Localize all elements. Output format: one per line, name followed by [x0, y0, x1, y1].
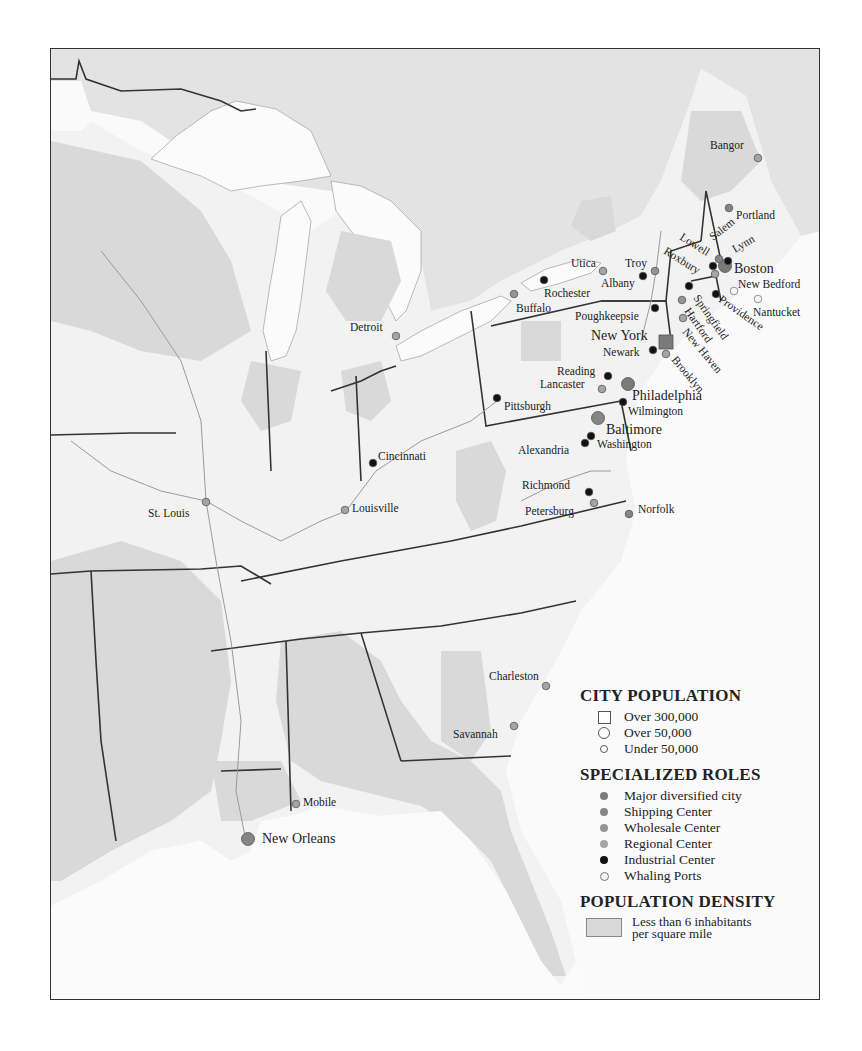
- industrial-city-dot-icon: [369, 459, 377, 467]
- shipping-city-dot-icon: [715, 255, 723, 263]
- legend-label: Under 50,000: [624, 741, 698, 757]
- regional-dot-icon: [600, 840, 608, 848]
- shipping-city-dot-icon: [242, 833, 255, 846]
- industrial-city-dot-icon: [587, 432, 595, 440]
- industrial-city-dot-icon: [493, 394, 501, 402]
- city-label: Louisville: [352, 502, 399, 514]
- city-marker: Nantucket: [753, 295, 801, 318]
- legend-item-over-50000: Over 50,000: [580, 725, 820, 741]
- regional-city-dot-icon: [510, 722, 518, 730]
- city-label: Albany: [601, 277, 635, 290]
- legend-item-whaling: Whaling Ports: [580, 868, 820, 884]
- city-label: Norfolk: [638, 503, 675, 515]
- city-label: Reading: [557, 365, 596, 378]
- legend-label: Industrial Center: [624, 852, 715, 868]
- whaling-city-dot-icon: [754, 295, 762, 303]
- city-label: Utica: [571, 257, 596, 269]
- regional-city-dot-icon: [662, 350, 670, 358]
- city-label: Troy: [625, 257, 647, 270]
- legend-label: Major diversified city: [624, 788, 742, 804]
- wholesale-dot-icon: [600, 824, 608, 832]
- legend-label: Over 50,000: [624, 725, 692, 741]
- city-label: Philadelphia: [632, 388, 703, 403]
- regional-city-dot-icon: [599, 267, 607, 275]
- major_diversified-city-dot-icon: [659, 335, 673, 349]
- city-label: Nantucket: [753, 306, 801, 318]
- industrial-city-dot-icon: [585, 488, 593, 496]
- shipping-city-dot-icon: [625, 510, 633, 518]
- regional-city-dot-icon: [542, 682, 550, 690]
- legend-item-major-diversified: Major diversified city: [580, 788, 820, 804]
- regional-city-dot-icon: [292, 800, 300, 808]
- regional-city-dot-icon: [590, 499, 598, 507]
- legend-label: Whaling Ports: [624, 868, 702, 884]
- shipping-city-dot-icon: [592, 412, 605, 425]
- legend-item-shipping: Shipping Center: [580, 804, 820, 820]
- city-label: New Bedford: [738, 278, 801, 290]
- legend-density-title: POPULATION DENSITY: [580, 892, 820, 912]
- city-label: Petersburg: [525, 505, 574, 518]
- regional-city-dot-icon: [679, 314, 687, 322]
- industrial-city-dot-icon: [651, 304, 659, 312]
- square-symbol-icon: [598, 711, 611, 724]
- regional-city-dot-icon: [392, 332, 400, 340]
- legend-label: Wholesale Center: [624, 820, 720, 836]
- shipping-city-dot-icon: [725, 204, 733, 212]
- major-diversified-dot-icon: [600, 792, 608, 800]
- regional-city-dot-icon: [598, 385, 606, 393]
- city-label: Boston: [734, 261, 774, 276]
- city-label: Mobile: [303, 796, 336, 808]
- legend-item-under-50000: Under 50,000: [580, 741, 820, 757]
- city-label: Cincinnati: [378, 450, 426, 462]
- city-label: Wilmington: [628, 405, 683, 418]
- city-marker: New Bedford: [730, 278, 800, 295]
- city-label: Portland: [736, 209, 775, 221]
- city-label: Savannah: [453, 728, 498, 740]
- industrial-city-dot-icon: [712, 290, 720, 298]
- industrial-city-dot-icon: [619, 398, 627, 406]
- shipping-dot-icon: [600, 808, 608, 816]
- city-label: Lancaster: [540, 378, 585, 390]
- regional-city-dot-icon: [202, 498, 210, 506]
- wholesale-city-dot-icon: [651, 267, 659, 275]
- legend-label: Over 300,000: [624, 709, 698, 725]
- legend-item-industrial: Industrial Center: [580, 852, 820, 868]
- city-label: Charleston: [489, 670, 539, 682]
- city-label: Detroit: [350, 321, 383, 333]
- city-label: Poughkeepsie: [575, 310, 639, 323]
- industrial-dot-icon: [600, 856, 608, 864]
- regional-city-dot-icon: [341, 506, 349, 514]
- legend-item-regional: Regional Center: [580, 836, 820, 852]
- industrial-city-dot-icon: [685, 282, 693, 290]
- legend-population-density: POPULATION DENSITY Less than 6 inhabitan…: [580, 892, 820, 940]
- regional-city-dot-icon: [711, 270, 719, 278]
- legend-roles-title: SPECIALIZED ROLES: [580, 765, 820, 785]
- city-label: New Orleans: [262, 831, 335, 846]
- whaling-dot-icon: [600, 872, 609, 881]
- wholesale-city-dot-icon: [678, 296, 686, 304]
- industrial-city-dot-icon: [604, 372, 612, 380]
- city-label: Baltimore: [606, 422, 662, 437]
- large-circle-symbol-icon: [598, 727, 610, 739]
- legend-label: Regional Center: [624, 836, 712, 852]
- legend-city-population: CITY POPULATION Over 300,000 Over 50,000…: [580, 686, 820, 757]
- industrial-city-dot-icon: [649, 346, 657, 354]
- industrial-city-dot-icon: [581, 439, 589, 447]
- wholesale-city-dot-icon: [510, 290, 518, 298]
- density-label: Less than 6 inhabitants per square mile: [632, 916, 762, 940]
- industrial-city-dot-icon: [724, 257, 732, 265]
- industrial-city-dot-icon: [639, 272, 647, 280]
- city-label: Washington: [597, 438, 652, 451]
- city-label: Bangor: [710, 139, 744, 152]
- legend: CITY POPULATION Over 300,000 Over 50,000…: [580, 686, 820, 948]
- regional-city-dot-icon: [754, 154, 762, 162]
- whaling-city-dot-icon: [730, 287, 738, 295]
- city-label: Newark: [603, 346, 640, 358]
- city-label: Rochester: [544, 287, 590, 299]
- city-label: Buffalo: [516, 302, 551, 314]
- city-label: Pittsburgh: [504, 400, 551, 413]
- small-circle-symbol-icon: [600, 745, 608, 753]
- legend-label: Shipping Center: [624, 804, 712, 820]
- density-swatch: [586, 918, 622, 937]
- legend-item-wholesale: Wholesale Center: [580, 820, 820, 836]
